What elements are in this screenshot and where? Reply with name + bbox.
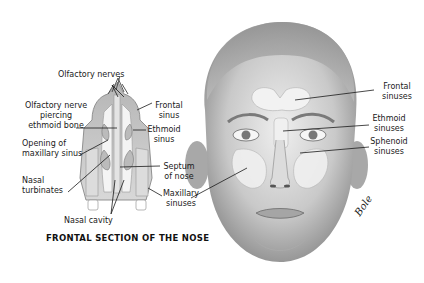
label-line: Sphenoid [368,137,410,147]
label-nasal-turbinates: Nasal turbinates [22,176,63,196]
label-ethmoid-sinus: Ethmoid sinus [146,125,182,145]
label-frontal-sinus: Frontal sinus [152,101,186,121]
label-line: Ethmoid [146,125,182,135]
label-line: maxillary sinus [22,149,82,159]
label-line: of nose [162,172,196,182]
section-title: FRONTAL SECTION OF THE NOSE [46,233,209,243]
label-line: Maxillary [161,189,201,199]
label-line: Opening of [22,139,82,149]
label-line: turbinates [22,186,63,196]
label-olfactory-nerve-piercing: Olfactory nerve piercing ethmoid bone [22,101,90,131]
label-line: Septum [162,162,196,172]
label-line: piercing [22,111,90,121]
label-maxillary-sinuses: Maxillary sinuses [161,189,201,209]
label-line: sinus [146,135,182,145]
label-sphenoid-sinuses: Sphenoid sinuses [368,137,410,157]
label-line: sinuses [376,92,418,102]
label-line: Frontal [376,82,418,92]
label-line: sinuses [161,199,201,209]
label-frontal-sinuses: Frontal sinuses [376,82,418,102]
label-line: Nasal [22,176,63,186]
label-line: ethmoid bone [22,121,90,131]
label-line: sinuses [368,147,410,157]
label-line: sinuses [368,124,410,134]
label-nasal-cavity: Nasal cavity [64,216,113,226]
label-septum-of-nose: Septum of nose [162,162,196,182]
label-opening-maxillary-sinus: Opening of maxillary sinus [22,139,82,159]
label-line: Olfactory nerve [22,101,90,111]
label-line: Ethmoid [368,114,410,124]
label-line: Frontal [152,101,186,111]
nose-section-illustration [80,76,152,210]
label-ethmoid-sinuses: Ethmoid sinuses [368,114,410,134]
label-olfactory-nerves: Olfactory nerves [58,70,124,80]
face-illustration [185,22,368,262]
label-line: sinus [152,111,186,121]
